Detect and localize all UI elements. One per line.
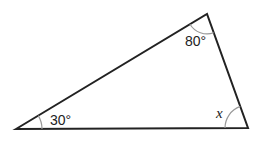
angle-label-top: 80° [185, 33, 206, 49]
triangle-diagram: 30° 80° x [0, 0, 254, 141]
angle-arc-right [225, 106, 240, 128]
angle-label-left: 30° [50, 112, 71, 128]
angle-arc-left [38, 116, 42, 129]
angle-label-right: x [215, 105, 223, 121]
